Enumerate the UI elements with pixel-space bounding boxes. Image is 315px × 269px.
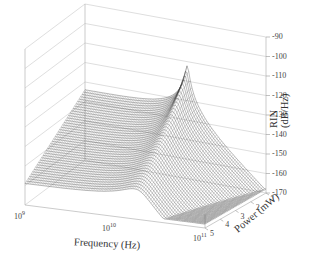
grid-line xyxy=(25,160,85,205)
grid-line xyxy=(85,141,266,174)
grid-line xyxy=(85,4,266,37)
z-tick-label: -140 xyxy=(272,130,287,139)
power-tick-label: 4 xyxy=(225,220,229,229)
grid-line xyxy=(25,121,85,166)
grid-line xyxy=(25,82,85,127)
surface-wire-frequency xyxy=(27,90,87,184)
power-tick-label: 5 xyxy=(210,229,214,238)
wireframe-surface xyxy=(25,66,266,224)
power-tick xyxy=(205,228,208,230)
z-tick-label: -150 xyxy=(272,149,287,158)
power-tick xyxy=(251,202,254,204)
grid-line xyxy=(85,24,266,57)
grid-line xyxy=(25,4,85,49)
surface-wire-frequency xyxy=(171,153,232,220)
surface-wire-frequency xyxy=(30,91,90,185)
grid-line xyxy=(85,43,266,76)
z-tick-label: -100 xyxy=(272,52,287,61)
surface-wire-frequency xyxy=(37,92,97,185)
z-tick-label: -160 xyxy=(272,169,287,178)
x-tick-1e10: 1010 xyxy=(102,222,116,233)
power-tick xyxy=(220,219,223,221)
grid-line xyxy=(25,43,85,88)
surface-wire-frequency xyxy=(33,91,93,184)
surface-wire-power xyxy=(60,127,241,204)
surface-plot xyxy=(0,0,315,269)
z-tick-label: -90 xyxy=(272,32,283,41)
surface-wire-frequency xyxy=(97,99,157,191)
grid-line xyxy=(25,63,85,108)
surface-wire-frequency xyxy=(138,106,199,190)
z-tick-label: -110 xyxy=(272,71,286,80)
grid-line xyxy=(85,63,266,96)
surface-wire-frequency xyxy=(25,90,85,184)
surface-wire-frequency xyxy=(32,91,92,184)
surface-wire-frequency xyxy=(109,97,169,192)
axis-box xyxy=(25,4,266,228)
surface-wire-frequency xyxy=(158,137,219,212)
x-tick-1e9: 109 xyxy=(14,210,25,221)
power-tick xyxy=(236,211,239,213)
x-tick-1e11: 1011 xyxy=(193,232,207,243)
grid-line xyxy=(25,24,85,69)
surface-wire-power xyxy=(51,144,231,210)
surface-wire-frequency xyxy=(35,91,95,184)
z-axis-label: RIN (dB/Hz) xyxy=(268,81,290,128)
